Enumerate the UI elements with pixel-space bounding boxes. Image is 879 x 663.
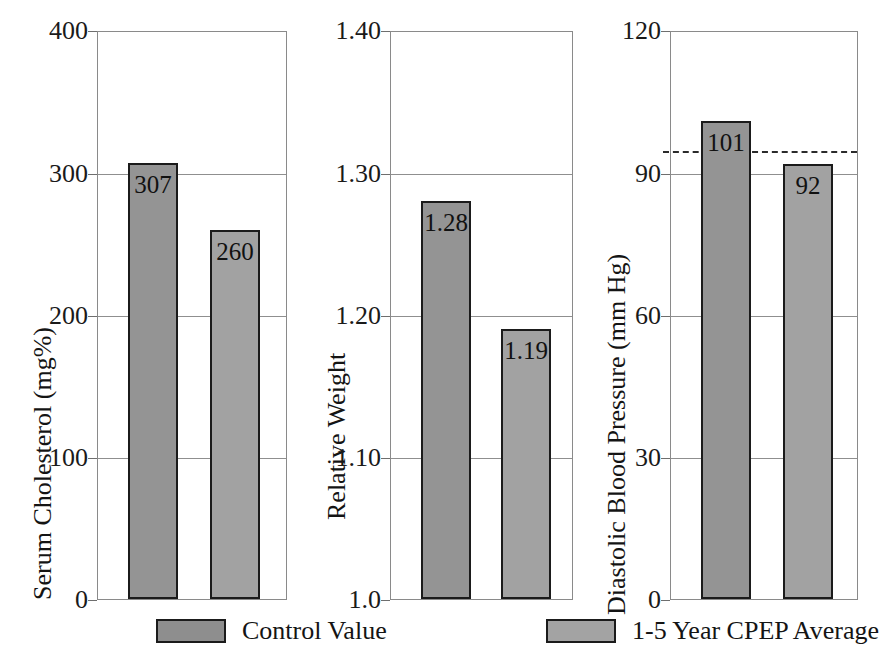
y-tick-mark-30 xyxy=(661,458,670,459)
plot-area-diastolic-blood-pressure: 101 92 xyxy=(670,31,858,600)
gridline-300 xyxy=(98,174,286,175)
y-axis-title-relative-weight: Relative Weight xyxy=(324,353,350,520)
y-tick-mark-1-0 xyxy=(381,600,390,601)
panel-diastolic-blood-pressure: Diastolic Blood Pressure (mm Hg) 120 90 … xyxy=(572,0,871,663)
bar-value-label-cpep: 92 xyxy=(785,173,831,198)
legend-swatch-icon-cpep xyxy=(546,619,616,643)
bar-cpep-serum-cholesterol: 260 xyxy=(210,230,260,599)
y-tick-mark-400 xyxy=(88,31,97,32)
y-tick-label-400: 400 xyxy=(10,18,88,44)
y-tick-label-90: 90 xyxy=(582,161,661,187)
legend-item-control-value: Control Value xyxy=(156,618,387,644)
y-tick-mark-1-20 xyxy=(381,316,390,317)
y-tick-label-1-30: 1.30 xyxy=(292,161,381,187)
bar-value-label-control: 101 xyxy=(703,130,749,155)
y-tick-label-60: 60 xyxy=(582,303,661,329)
gridline-1-20 xyxy=(391,316,572,317)
panel-serum-cholesterol: Serum Cholesterol (mg%) 400 300 200 100 … xyxy=(0,0,300,663)
y-tick-mark-60 xyxy=(661,316,670,317)
bar-value-label-cpep: 260 xyxy=(212,239,258,264)
legend-label-cpep: 1-5 Year CPEP Average xyxy=(632,618,879,644)
y-tick-label-200: 200 xyxy=(10,303,88,329)
y-tick-label-0: 0 xyxy=(10,587,88,613)
bar-control-diastolic-blood-pressure: 101 xyxy=(701,121,751,599)
y-tick-mark-300 xyxy=(88,174,97,175)
y-tick-label-0: 0 xyxy=(582,587,661,613)
gridline-1-30 xyxy=(391,174,572,175)
y-tick-mark-200 xyxy=(88,316,97,317)
y-tick-mark-0 xyxy=(88,600,97,601)
reference-line-95 xyxy=(663,151,857,153)
y-tick-mark-1-30 xyxy=(381,174,390,175)
bar-control-serum-cholesterol: 307 xyxy=(128,163,178,599)
y-tick-label-30: 30 xyxy=(582,445,661,471)
bar-value-label-control: 1.28 xyxy=(423,210,469,235)
y-tick-label-1-10: 1.10 xyxy=(292,445,381,471)
panel-relative-weight: Relative Weight 1.40 1.30 1.20 1.10 1.0 … xyxy=(292,0,582,663)
plot-area-serum-cholesterol: 307 260 xyxy=(97,31,287,600)
chart-legend: Control Value 1-5 Year CPEP Average xyxy=(0,618,871,663)
y-tick-label-1-40: 1.40 xyxy=(292,18,381,44)
legend-label-control: Control Value xyxy=(242,618,387,644)
y-tick-label-1-20: 1.20 xyxy=(292,303,381,329)
y-tick-mark-100 xyxy=(88,458,97,459)
y-tick-mark-90 xyxy=(661,174,670,175)
legend-item-cpep-average: 1-5 Year CPEP Average xyxy=(546,618,879,644)
bar-cpep-diastolic-blood-pressure: 92 xyxy=(783,164,833,599)
y-tick-label-100: 100 xyxy=(10,445,88,471)
y-tick-mark-0 xyxy=(661,600,670,601)
legend-swatch-icon-control xyxy=(156,619,226,643)
y-tick-mark-1-10 xyxy=(381,458,390,459)
bar-value-label-cpep: 1.19 xyxy=(503,338,549,363)
y-tick-label-1-0: 1.0 xyxy=(292,587,381,613)
bar-control-relative-weight: 1.28 xyxy=(421,201,471,599)
bar-value-label-control: 307 xyxy=(130,172,176,197)
y-tick-mark-1-40 xyxy=(381,31,390,32)
plot-area-relative-weight: 1.28 1.19 xyxy=(390,31,573,600)
y-tick-label-120: 120 xyxy=(582,18,661,44)
y-tick-label-300: 300 xyxy=(10,161,88,187)
bar-cpep-relative-weight: 1.19 xyxy=(501,329,551,599)
y-tick-mark-120 xyxy=(661,31,670,32)
